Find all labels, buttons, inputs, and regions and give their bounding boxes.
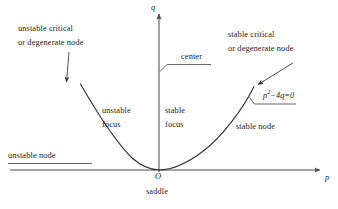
annotation-stable-critical: stable critical or degenerate node xyxy=(228,28,294,55)
annotation-stable-critical-line2: or degenerate node xyxy=(228,42,294,56)
annotation-stable-critical-line1: stable critical xyxy=(228,28,294,42)
curve-equation-label: p2−4q=0 xyxy=(263,91,294,101)
x-axis-label: p xyxy=(325,173,329,183)
region-label-unstable-focus-line1: unstable xyxy=(102,104,131,118)
center-leader-line xyxy=(160,65,211,72)
region-label-stable-focus: stable focus xyxy=(165,104,185,131)
region-label-unstable-node: unstable node xyxy=(8,151,56,161)
curve-equation-tail: −4q=0 xyxy=(270,91,294,100)
annotation-unstable-critical: unstable critical or degenerate node xyxy=(18,22,84,49)
unstable-critical-arrow xyxy=(67,52,70,82)
annotation-unstable-critical-line1: unstable critical xyxy=(18,22,84,36)
region-label-saddle: saddle xyxy=(146,187,168,197)
region-label-center: center xyxy=(181,52,202,62)
region-label-stable-focus-line1: stable xyxy=(165,104,185,118)
region-label-stable-node: stable node xyxy=(236,122,275,132)
region-label-stable-focus-line2: focus xyxy=(165,118,185,132)
y-axis-label: q xyxy=(151,3,155,13)
pq-plane-diagram: q p O unstable node unstable focus stabl… xyxy=(0,0,338,209)
stable-critical-arrow xyxy=(258,63,293,85)
origin-label: O xyxy=(155,172,161,182)
annotation-unstable-critical-line2: or degenerate node xyxy=(18,36,84,50)
region-label-unstable-focus-line2: focus xyxy=(102,118,131,132)
region-label-unstable-focus: unstable focus xyxy=(102,104,131,131)
